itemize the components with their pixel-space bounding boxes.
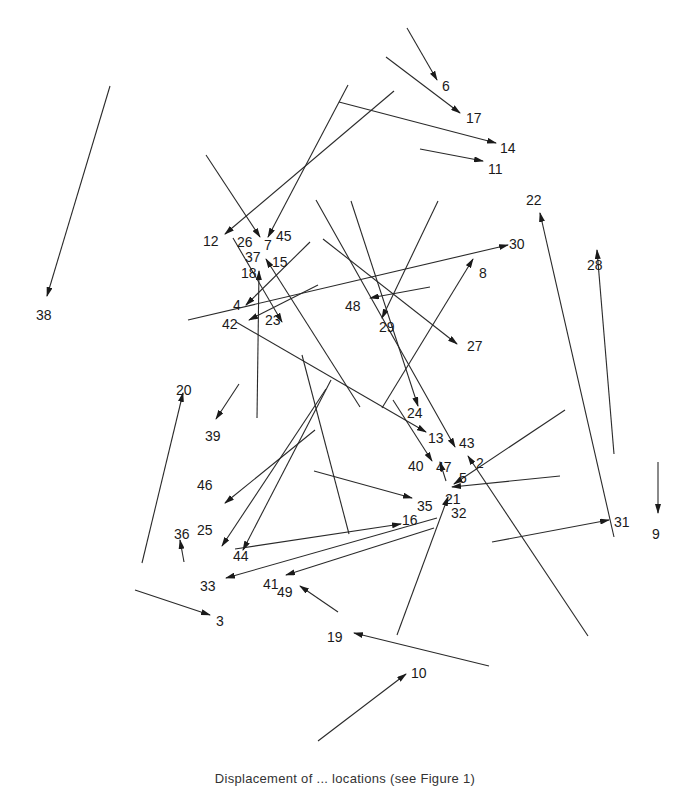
- vector-label-7: 7: [264, 237, 272, 253]
- vector-label-3: 3: [216, 613, 224, 629]
- vector-label-37: 37: [245, 249, 261, 265]
- vector-label-5: 5: [459, 470, 467, 486]
- vector-arrow-34: [302, 355, 349, 534]
- vector-lines: [47, 28, 658, 741]
- vector-label-38: 38: [36, 307, 52, 323]
- vector-label-18: 18: [241, 265, 257, 281]
- vector-label-45: 45: [276, 228, 292, 244]
- vector-label-25: 25: [197, 522, 213, 538]
- vector-arrow-21: [452, 476, 560, 487]
- vector-label-42: 42: [222, 316, 238, 332]
- vector-label-29: 29: [379, 319, 395, 335]
- vector-arrow-19: [354, 633, 489, 666]
- vector-arrow-49: [300, 586, 338, 612]
- vector-label-48: 48: [345, 298, 361, 314]
- vector-label-49: 49: [277, 584, 293, 600]
- vector-label-27: 27: [467, 338, 483, 354]
- vector-arrow-39: [216, 384, 239, 419]
- vector-label-12: 12: [203, 233, 219, 249]
- vector-label-13: 13: [428, 430, 444, 446]
- vector-arrow-16: [235, 524, 401, 549]
- vector-label-4: 4: [233, 297, 241, 313]
- vector-label-22: 22: [526, 192, 542, 208]
- vector-label-17: 17: [466, 110, 482, 126]
- vector-label-36: 36: [174, 526, 190, 542]
- vector-arrow-12: [225, 91, 394, 234]
- vector-label-20: 20: [176, 382, 192, 398]
- vector-label-33: 33: [200, 578, 216, 594]
- vector-label-15: 15: [272, 254, 288, 270]
- vector-arrow-31: [492, 520, 609, 542]
- vector-label-8: 8: [479, 265, 487, 281]
- vector-label-19: 19: [327, 629, 343, 645]
- vector-label-47: 47: [436, 459, 452, 475]
- vector-arrow-6: [407, 28, 437, 80]
- vector-arrow-11: [420, 149, 483, 161]
- vector-label-23: 23: [265, 312, 281, 328]
- vector-label-6: 6: [442, 78, 450, 94]
- vector-arrow-44: [243, 380, 331, 550]
- vector-label-46: 46: [197, 477, 213, 493]
- vector-label-11: 11: [488, 161, 503, 177]
- vector-arrow-3: [135, 590, 210, 615]
- vector-arrow-29: [382, 201, 438, 318]
- figure-caption: Displacement of ... locations (see Figur…: [0, 771, 690, 786]
- vector-label-31: 31: [614, 514, 630, 530]
- vector-arrow-46: [225, 430, 315, 503]
- vector-label-40: 40: [408, 458, 424, 474]
- vector-label-16: 16: [402, 512, 418, 528]
- vector-label-30: 30: [509, 236, 525, 252]
- vector-label-32: 32: [451, 505, 467, 521]
- vector-arrow-24: [351, 201, 418, 406]
- vector-arrow-22: [540, 213, 614, 537]
- vector-arrow-28: [597, 250, 614, 454]
- vector-arrow-25: [222, 389, 326, 546]
- vector-label-43: 43: [459, 435, 475, 451]
- vector-arrow-26: [206, 155, 260, 237]
- vector-label-14: 14: [500, 140, 516, 156]
- vector-label-28: 28: [587, 257, 603, 273]
- vector-label-35: 35: [417, 498, 433, 514]
- vector-arrow-45: [268, 85, 348, 237]
- vector-arrow-15: [266, 259, 360, 407]
- vector-label-10: 10: [411, 665, 427, 681]
- vector-arrow-8: [382, 259, 473, 408]
- vector-labels: 6171411381226457371518442233084829272413…: [36, 78, 660, 681]
- vector-label-9: 9: [652, 526, 660, 542]
- vector-arrow-41: [286, 528, 434, 575]
- vector-arrow-42: [249, 285, 318, 320]
- vector-label-26: 26: [237, 234, 253, 250]
- vector-arrow-10: [318, 674, 406, 741]
- vector-arrow-13: [236, 322, 426, 432]
- vector-arrow-38: [47, 86, 110, 296]
- vector-arrow-35: [314, 471, 412, 498]
- vector-label-44: 44: [233, 548, 249, 564]
- vector-label-39: 39: [205, 428, 221, 444]
- vector-label-24: 24: [407, 405, 423, 421]
- vector-arrow-36: [180, 540, 184, 562]
- vector-arrow-48: [370, 287, 430, 298]
- vector-label-2: 2: [476, 455, 484, 471]
